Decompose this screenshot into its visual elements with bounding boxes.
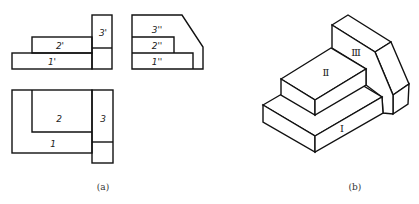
iso-label-2: Ⅱ <box>323 67 330 78</box>
side-view-step-1 <box>132 53 193 69</box>
iso-label-1: Ⅰ <box>340 123 344 134</box>
side-view: 1'' 2'' 3'' <box>132 15 203 69</box>
iso-label-3: Ⅲ <box>351 47 361 58</box>
label-2-prime: 2' <box>56 41 64 51</box>
label-2: 2 <box>56 114 62 124</box>
front-view: 1' 2' 3' <box>12 15 112 69</box>
isometric-view: Ⅰ Ⅱ Ⅲ <box>263 15 409 152</box>
label-3-double-prime: 3'' <box>152 25 163 35</box>
top-view-block-3 <box>92 90 113 163</box>
top-view-block-2 <box>32 90 92 132</box>
label-1: 1 <box>50 139 56 149</box>
technical-drawing: 1' 2' 3' 1'' 2'' 3'' 1 2 3 (a) <box>0 0 419 204</box>
label-3: 3 <box>100 114 106 124</box>
caption-a: (a) <box>97 182 109 192</box>
label-1-double-prime: 1'' <box>152 57 163 67</box>
label-3-prime: 3' <box>99 28 107 38</box>
front-view-block-3 <box>92 15 112 69</box>
caption-b: (b) <box>349 182 362 192</box>
label-1-prime: 1' <box>48 57 56 67</box>
top-view: 1 2 3 <box>12 90 113 163</box>
label-2-double-prime: 2'' <box>152 41 163 51</box>
